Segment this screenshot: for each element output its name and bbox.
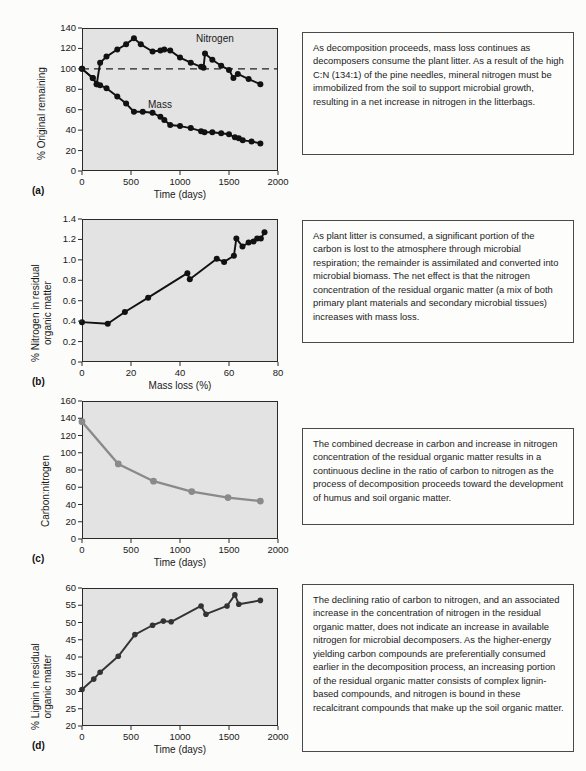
x-tick-label: 1500 <box>209 545 249 555</box>
textbox-d-text: The declining ratio of carbon to nitroge… <box>313 593 564 714</box>
y-tick-label: 120 <box>40 431 76 441</box>
x-tick-label: 0 <box>62 177 102 187</box>
x-axis-title-a: Time (days) <box>100 189 260 200</box>
x-tick-label: 0 <box>62 368 102 378</box>
panel-letter-c: (c) <box>32 553 44 564</box>
y-tick-label: 1.0 <box>40 255 76 265</box>
x-tick-label: 1000 <box>160 732 200 742</box>
x-tick-label: 500 <box>111 545 151 555</box>
textbox-a-text: As decomposition proceeds, mass loss con… <box>313 41 564 108</box>
textbox-b-text: As plant litter is consumed, a significa… <box>313 229 564 323</box>
y-tick-label: 160 <box>40 396 76 406</box>
chart-panel-d: 2025303540455055600500100015002000 Time … <box>0 580 292 771</box>
x-axis-title-d: Time (days) <box>100 744 260 755</box>
y-tick-label: 120 <box>40 43 76 53</box>
x-tick-label: 2000 <box>258 732 298 742</box>
y-axis-title-a: % Original remaining <box>36 67 47 160</box>
x-tick-label: 2000 <box>258 177 298 187</box>
x-tick-label: 1000 <box>160 177 200 187</box>
y-tick-label: 50 <box>40 618 76 628</box>
chart-panel-b: 00.20.40.60.81.01.21.4020406080 Mass los… <box>0 205 292 395</box>
y-tick-label: 140 <box>40 413 76 423</box>
y-tick-label: 55 <box>40 600 76 610</box>
x-tick-label: 500 <box>111 732 151 742</box>
x-tick-label: 0 <box>62 732 102 742</box>
y-tick-label: 0 <box>40 166 76 176</box>
y-tick-label: 0 <box>40 534 76 544</box>
x-tick-label: 1500 <box>209 732 249 742</box>
chart-panel-c: 0204060801001201401600500100015002000 Ti… <box>0 395 292 580</box>
textbox-d: The declining ratio of carbon to nitroge… <box>302 584 574 752</box>
textbox-c: The combined decrease in carbon and incr… <box>302 428 574 525</box>
y-axis-title-b: % Nitrogen in residualorganic matter <box>30 264 53 362</box>
x-tick-label: 1000 <box>160 545 200 555</box>
x-axis-title-c: Time (days) <box>100 557 260 568</box>
x-axis-title-b: Mass loss (%) <box>100 380 260 391</box>
y-axis-title-c: Carbon:nitrogen <box>40 455 51 527</box>
y-axis-title-d: % Lignin in residualorganic matter <box>30 643 53 730</box>
x-tick-label: 0 <box>62 545 102 555</box>
x-tick-label: 500 <box>111 177 151 187</box>
y-tick-label: 60 <box>40 583 76 593</box>
y-tick-label: 1.4 <box>40 214 76 224</box>
panel-letter-a: (a) <box>32 185 44 196</box>
x-tick-label: 80 <box>258 368 298 378</box>
figure-page: 0204060801001201400500100015002000 Time … <box>0 0 586 771</box>
chart-panel-a: 0204060801001201400500100015002000 Time … <box>0 0 292 205</box>
panel-letter-b: (b) <box>32 376 45 387</box>
x-tick-label: 40 <box>160 368 200 378</box>
textbox-c-text: The combined decrease in carbon and incr… <box>313 437 564 504</box>
textbox-a: As decomposition proceeds, mass loss con… <box>302 32 574 155</box>
x-tick-label: 2000 <box>258 545 298 555</box>
y-tick-label: 140 <box>40 23 76 33</box>
panel-letter-d: (d) <box>32 740 45 751</box>
series-label-nitrogen: Nitrogen <box>196 33 234 44</box>
x-tick-label: 20 <box>111 368 151 378</box>
x-tick-label: 1500 <box>209 177 249 187</box>
x-tick-label: 60 <box>209 368 249 378</box>
textbox-b: As plant litter is consumed, a significa… <box>302 220 574 343</box>
y-tick-label: 1.2 <box>40 234 76 244</box>
series-label-mass: Mass <box>148 99 172 110</box>
